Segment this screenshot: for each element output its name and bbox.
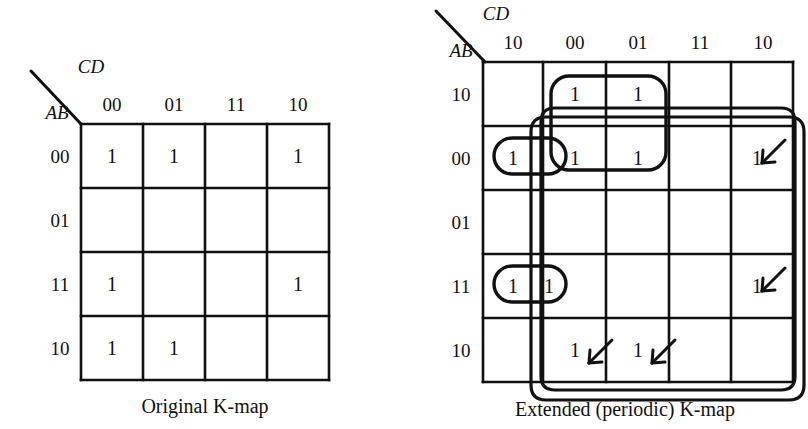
extended-cell-1-4: 1 xyxy=(752,148,762,168)
extended-cell-1-1: 1 xyxy=(570,148,580,168)
original-cell-2-3: 1 xyxy=(293,274,303,294)
extended-col-header-4: 10 xyxy=(754,33,773,52)
original-kmap-grid xyxy=(81,124,329,380)
original-col-header-1: 01 xyxy=(165,95,184,114)
original-row-header-0: 00 xyxy=(51,147,70,166)
extended-cell-0-1: 1 xyxy=(570,84,580,104)
extended-axis-top-label: CD xyxy=(483,4,509,23)
extended-row-header-1: 00 xyxy=(452,149,471,168)
extended-cell-4-1: 1 xyxy=(570,340,580,360)
extended-axis-left-label: AB xyxy=(449,41,472,60)
extended-col-header-0: 10 xyxy=(504,33,523,52)
original-cell-0-3: 1 xyxy=(293,146,303,166)
extended-col-header-1: 00 xyxy=(566,33,585,52)
extended-kmap-caption: Extended (periodic) K-map xyxy=(515,399,735,419)
extended-row-header-3: 11 xyxy=(452,277,470,296)
extended-cell-1-2: 1 xyxy=(633,148,643,168)
original-cell-0-0: 1 xyxy=(107,146,117,166)
extended-cell-4-2: 1 xyxy=(633,340,643,360)
original-axis-top-label: CD xyxy=(78,57,104,76)
extended-row-header-2: 01 xyxy=(452,213,471,232)
extended-cell-3-0: 1 xyxy=(508,276,518,296)
extended-cell-0-2: 1 xyxy=(633,84,643,104)
original-cell-3-0: 1 xyxy=(107,338,117,358)
extended-row-header-4: 10 xyxy=(452,341,471,360)
original-row-header-3: 10 xyxy=(51,339,70,358)
wrap-arrow-icons xyxy=(589,140,785,363)
original-cell-2-0: 1 xyxy=(107,274,117,294)
original-col-header-0: 00 xyxy=(103,95,122,114)
extended-col-header-3: 11 xyxy=(691,33,709,52)
original-col-header-2: 11 xyxy=(227,95,245,114)
original-cell-3-1: 1 xyxy=(169,338,179,358)
extended-col-header-2: 01 xyxy=(629,33,648,52)
extended-row-header-0: 10 xyxy=(452,85,471,104)
original-row-header-2: 11 xyxy=(51,275,69,294)
original-kmap-caption: Original K-map xyxy=(141,396,268,416)
original-axis-left-label: AB xyxy=(45,103,68,122)
figure-stage: AB CD 00 01 11 10 00 01 11 10 1 1 1 1 1 … xyxy=(0,0,808,429)
extended-cell-1-0: 1 xyxy=(508,148,518,168)
extended-cell-3-4: 1 xyxy=(752,276,762,296)
original-row-header-1: 01 xyxy=(51,211,70,230)
group-2x2-top xyxy=(551,76,666,170)
extended-cell-3-1: 1 xyxy=(544,276,554,296)
original-cell-0-1: 1 xyxy=(169,146,179,166)
original-col-header-3: 10 xyxy=(289,95,308,114)
kmap-drawing xyxy=(0,0,808,429)
